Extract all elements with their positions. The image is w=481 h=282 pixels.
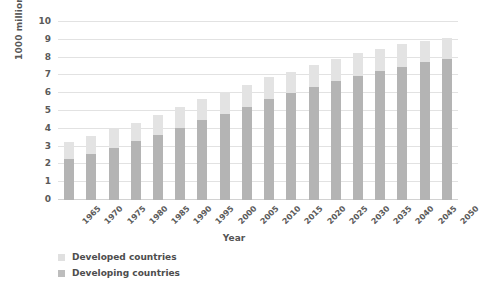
y-axis-tick-label: 0 (45, 194, 51, 204)
y-axis-tick-label: 3 (45, 141, 51, 151)
bar-group (153, 115, 163, 200)
bar-group (175, 107, 185, 200)
x-axis-title: Year (0, 233, 468, 243)
bar-segment-developed (109, 129, 119, 148)
legend-item[interactable]: Developed countries (58, 250, 180, 264)
bar-segment-developing (153, 135, 163, 200)
bar-segment-developing (242, 107, 252, 200)
bar-group (397, 44, 407, 200)
bar-segment-developed (64, 142, 74, 159)
y-axis-tick-label: 10 (38, 16, 51, 26)
x-axis-tick-label: 1985 (170, 204, 192, 226)
bar-segment-developed (420, 41, 430, 62)
bar-segment-developed (197, 99, 207, 119)
bar-segment-developed (175, 107, 185, 128)
bar-segment-developed (442, 38, 452, 58)
bar-segment-developed (264, 77, 274, 99)
bars-layer (58, 22, 458, 200)
bar-group (220, 92, 230, 200)
bar-segment-developing (286, 93, 296, 200)
bar-group (442, 38, 452, 200)
y-axis-tick-label: 4 (45, 123, 51, 133)
y-axis-tick-label: 8 (45, 52, 51, 62)
x-axis-tick-label: 1990 (192, 204, 214, 226)
plot-area: 012345678910 (58, 22, 458, 200)
bar-group (109, 129, 119, 200)
x-axis-tick-label: 1975 (125, 204, 147, 226)
bar-group (131, 123, 141, 200)
bar-segment-developing (131, 141, 141, 200)
bar-segment-developing (86, 154, 96, 200)
bar-group (64, 142, 74, 200)
x-axis-tick-label: 2005 (258, 204, 280, 226)
y-axis-tick-label: 2 (45, 158, 51, 168)
bar-segment-developed (131, 123, 141, 142)
x-axis-tick-label: 1980 (147, 204, 169, 226)
x-axis-tick-label: 2010 (281, 204, 303, 226)
bar-segment-developing (264, 99, 274, 200)
x-axis-tick-label: 2035 (392, 204, 414, 226)
x-axis-tick-label: 2025 (347, 204, 369, 226)
bar-segment-developing (64, 159, 74, 200)
bar-group (264, 77, 274, 200)
x-axis-tick-label: 2045 (436, 204, 458, 226)
x-axis-tick-label: 2030 (370, 204, 392, 226)
bar-segment-developed (153, 115, 163, 135)
bar-group (331, 59, 341, 201)
bar-group (353, 53, 363, 200)
x-axis-tick-label: 1965 (81, 204, 103, 226)
bar-segment-developed (375, 49, 385, 71)
chart-legend: Developed countriesDeveloping countries (58, 250, 180, 282)
bar-segment-developing (397, 67, 407, 201)
x-axis-tick-label: 2000 (236, 204, 258, 226)
x-axis-tick-label: 2015 (303, 204, 325, 226)
legend-swatch-icon (58, 270, 65, 277)
bar-segment-developing (197, 120, 207, 200)
legend-label: Developed countries (72, 252, 177, 262)
bar-group (197, 99, 207, 200)
bar-segment-developing (331, 81, 341, 200)
bar-group (286, 72, 296, 200)
bar-segment-developed (309, 65, 319, 87)
bar-segment-developed (286, 72, 296, 93)
y-axis-tick-label: 7 (45, 69, 51, 79)
bar-segment-developed (86, 136, 96, 154)
bar-group (420, 41, 430, 200)
y-axis-title: 1000 million people (14, 0, 28, 69)
bar-group (86, 136, 96, 200)
bar-segment-developing (220, 114, 230, 200)
bar-segment-developed (242, 85, 252, 106)
x-axis-tick-label: 1970 (103, 204, 125, 226)
bar-segment-developing (420, 62, 430, 200)
bar-segment-developing (442, 59, 452, 201)
y-axis-tick-label: 6 (45, 87, 51, 97)
x-axis-tick-label: 2020 (325, 204, 347, 226)
bar-segment-developing (309, 87, 319, 200)
bar-segment-developed (397, 44, 407, 66)
bar-segment-developed (331, 59, 341, 81)
bar-segment-developing (353, 76, 363, 200)
x-axis-tick-label: 2050 (458, 204, 480, 226)
bar-group (375, 49, 385, 200)
y-axis-tick-label: 5 (45, 105, 51, 115)
bar-segment-developed (353, 53, 363, 76)
bar-segment-developing (175, 128, 185, 200)
bar-segment-developing (109, 148, 119, 201)
x-axis-tick-label: 2040 (414, 204, 436, 226)
x-axis-tick-label: 1995 (214, 204, 236, 226)
legend-label: Developing countries (72, 268, 180, 278)
bar-segment-developing (375, 71, 385, 200)
y-axis-tick-label: 1 (45, 176, 51, 186)
bar-group (309, 65, 319, 200)
y-axis-tick-label: 9 (45, 34, 51, 44)
bar-group (242, 85, 252, 200)
legend-swatch-icon (58, 254, 65, 261)
bar-segment-developed (220, 92, 230, 113)
legend-item[interactable]: Developing countries (58, 266, 180, 280)
